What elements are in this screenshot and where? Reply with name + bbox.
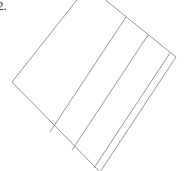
rectangle-outline [12, 0, 176, 171]
divider-line-1 [50, 17, 126, 132]
figure-canvas: 2. [0, 0, 187, 171]
divider-line-2 [72, 35, 148, 150]
divider-line-3 [94, 53, 170, 168]
divided-rectangle-figure [0, 0, 187, 171]
